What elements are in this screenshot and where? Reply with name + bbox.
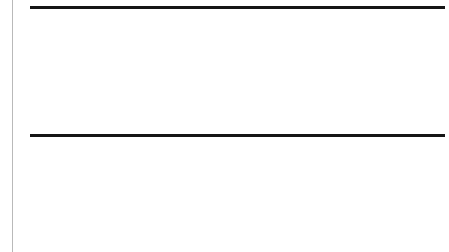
legend-item-heroin: [68, 41, 90, 50]
legend-swatch-meth: [103, 41, 121, 50]
legend-swatch-cocaine: [138, 41, 156, 50]
chart-legend: [68, 41, 160, 50]
top-divider-rule: [30, 6, 445, 9]
legend-item-meth: [103, 41, 125, 50]
legend-item-cocaine: [138, 41, 160, 50]
infographic-frame: [0, 0, 449, 252]
legend-swatch-heroin: [68, 41, 86, 50]
left-border-rule: [12, 0, 13, 252]
middle-divider-rule: [30, 134, 445, 137]
